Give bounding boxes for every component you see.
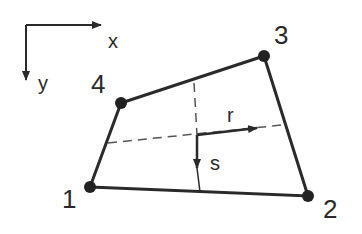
node-1	[84, 181, 96, 193]
quad-element-diagram: x y r s 1 2 3 4	[0, 0, 362, 234]
node-2	[302, 190, 314, 202]
node-1-label: 1	[62, 184, 76, 214]
node-3-label: 3	[274, 20, 288, 50]
node-2-label: 2	[323, 194, 337, 224]
y-axis-label: y	[38, 72, 48, 94]
node-4	[115, 97, 127, 109]
diagram-svg: x y r s 1 2 3 4	[0, 0, 362, 234]
s-axis-tail	[197, 168, 200, 192]
x-axis-label: x	[108, 30, 118, 52]
s-centerline	[194, 83, 197, 135]
local-axes: r s	[197, 104, 257, 192]
node-4-label: 4	[91, 69, 105, 99]
r-axis-label: r	[227, 104, 234, 126]
node-3	[258, 50, 270, 62]
s-axis-label: s	[210, 152, 220, 174]
centerlines	[108, 83, 282, 143]
r-axis-arrow	[197, 128, 257, 135]
nodes: 1 2 3 4	[62, 20, 337, 224]
